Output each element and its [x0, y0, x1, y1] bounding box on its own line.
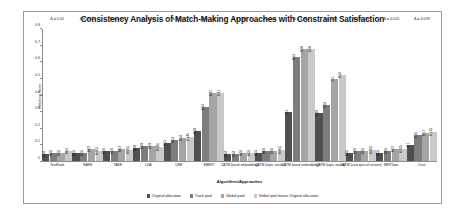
bar-set: 0.180.330.410.41: [194, 29, 224, 161]
bar-slot: 0.09: [149, 29, 156, 161]
bar-slot: 0.175: [430, 29, 437, 161]
bar-slot: 0.05: [376, 29, 383, 161]
bar-group: Δ = 0.0130.050.050.070.063RAKE: [72, 29, 102, 161]
bar[interactable]: 0.09: [149, 146, 156, 161]
bar-slot: 0.05: [57, 29, 64, 161]
bar-value-label: 0.175: [429, 128, 433, 136]
bar-slot: 0.06: [103, 29, 110, 161]
bar[interactable]: 0.06: [103, 151, 110, 161]
bar-value-label: 0.065: [126, 146, 130, 154]
bar[interactable]: 0.41: [209, 93, 216, 161]
bar-value-label: 0.3: [285, 109, 289, 113]
bar-slot: 0.065: [369, 29, 376, 161]
bar[interactable]: 0.145: [187, 137, 194, 161]
bar[interactable]: 0.05: [255, 153, 262, 161]
bar[interactable]: 0.34: [323, 105, 330, 161]
bar-set: 0.060.060.070.065: [103, 29, 133, 161]
bar[interactable]: 0.17: [422, 133, 429, 161]
bar[interactable]: 0.68: [301, 49, 308, 161]
bar-group: Δ = 0.060.040.040.050.05CATM (word embed…: [224, 29, 254, 161]
bar-slot: 0.06: [270, 29, 277, 161]
bar-slot: 0.07: [118, 29, 125, 161]
plot-inner: Matching Score 00.10.20.30.40.50.60.70.8…: [42, 29, 437, 162]
bar-slot: 0.06: [111, 29, 118, 161]
bar[interactable]: 0.09: [141, 146, 148, 161]
bar[interactable]: 0.14: [179, 138, 186, 161]
bar-value-label: 0.16: [414, 132, 418, 138]
group-delta-annotation: Δ = 0.078: [407, 17, 437, 21]
bar[interactable]: 0.13: [171, 140, 178, 161]
bar[interactable]: 0.05: [376, 153, 383, 161]
bar[interactable]: 0.05: [240, 153, 247, 161]
bar[interactable]: 0.16: [414, 135, 421, 161]
bar[interactable]: 0.63: [293, 57, 300, 161]
bar-value-label: 0.68: [300, 46, 304, 52]
bar-slot: 0.075: [399, 29, 406, 161]
legend-item[interactable]: Track pool: [190, 194, 212, 198]
bar[interactable]: 0.05: [346, 153, 353, 161]
bar-value-label: 0.41: [209, 90, 213, 96]
bar[interactable]: 0.33: [202, 107, 209, 161]
bar-slot: 0.063: [96, 29, 103, 161]
bar-slot: 0.11: [164, 29, 171, 161]
bar[interactable]: 0.05: [57, 153, 64, 161]
bar[interactable]: 0.3: [285, 112, 292, 162]
bar-value-label: 0.06: [262, 148, 266, 154]
bar[interactable]: 0.06: [354, 151, 361, 161]
bar[interactable]: 0.06: [270, 151, 277, 161]
bar[interactable]: 0.07: [392, 149, 399, 161]
bar[interactable]: 0.085: [156, 147, 163, 161]
bar[interactable]: 0.06: [361, 151, 368, 161]
bar[interactable]: 0.11: [164, 143, 171, 161]
bar-value-label: 0.08: [133, 145, 137, 151]
bar-slot: 0.13: [171, 29, 178, 161]
bar-value-label: 0.065: [369, 146, 373, 154]
bar[interactable]: 0.08: [133, 148, 140, 161]
bar[interactable]: 0.07: [88, 149, 95, 161]
plot-area: Matching Score 00.10.20.30.40.50.60.70.8…: [42, 29, 437, 162]
bar[interactable]: 0.05: [80, 153, 87, 161]
bar-group: Δ = 0.0150.050.060.060.065CATM (concepts…: [346, 29, 376, 161]
legend-swatch-icon: [254, 194, 257, 197]
bar-slot: 0.33: [202, 29, 209, 161]
bar-slot: 0.1: [407, 29, 414, 161]
bar[interactable]: 0.06: [262, 151, 269, 161]
bar[interactable]: 0.065: [126, 150, 133, 161]
legend-item[interactable]: Original allocation: [147, 194, 181, 198]
x-axis-line: [42, 161, 437, 162]
bar-value-label: 0.04: [232, 151, 236, 157]
bar[interactable]: 0.065: [278, 150, 285, 161]
bar-value-label: 0.06: [110, 148, 114, 154]
group-delta-annotation: Δ = 0.04: [164, 17, 194, 21]
y-tick-label: 0.7: [35, 40, 40, 44]
bar-slot: 0.16: [414, 29, 421, 161]
bar[interactable]: 0.29: [315, 113, 322, 161]
group-delta-annotation: Δ = 0.025: [376, 17, 406, 21]
bar[interactable]: 0.18: [194, 131, 201, 161]
y-tick-label: 0.5: [35, 73, 40, 77]
bar[interactable]: 0.075: [399, 149, 406, 161]
y-tick-label: 0.3: [35, 106, 40, 110]
bar[interactable]: 0.04: [224, 154, 231, 161]
bar[interactable]: 0.05: [50, 153, 57, 161]
legend-label: Original allocation: [152, 194, 181, 198]
bar-value-label: 0.06: [353, 148, 357, 154]
legend-item[interactable]: Global pool: [221, 194, 245, 198]
group-delta-annotation: Δ = 0.26: [315, 17, 345, 21]
bar[interactable]: 0.07: [118, 149, 125, 161]
legend-item[interactable]: Global pool minus Original allocation: [254, 194, 319, 198]
bar-slot: 0.41: [217, 29, 224, 161]
bar[interactable]: 0.68: [308, 49, 315, 161]
bar[interactable]: 0.1: [407, 145, 414, 162]
bar[interactable]: 0.06: [111, 151, 118, 161]
bar[interactable]: 0.5: [331, 79, 338, 162]
bar[interactable]: 0.175: [430, 132, 437, 161]
bar-set: 0.050.060.060.065: [255, 29, 285, 161]
bar[interactable]: 0.05: [72, 153, 79, 161]
bar[interactable]: 0.06: [384, 151, 391, 161]
bar-value-label: 0.06: [65, 148, 69, 154]
bar[interactable]: 0.52: [339, 75, 346, 161]
bar-slot: 0.63: [293, 29, 300, 161]
group-delta-annotation: Δ = 0.07: [194, 17, 224, 21]
bar-slot: 0.68: [308, 29, 315, 161]
